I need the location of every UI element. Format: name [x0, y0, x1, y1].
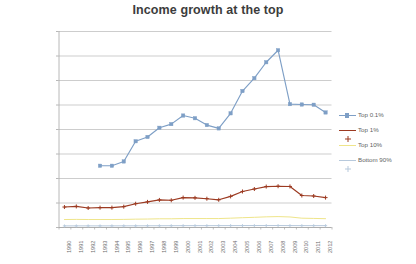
- x-axis-tick-label: 2007: [269, 240, 275, 252]
- legend-swatch-icon: [339, 126, 356, 135]
- legend-label: Bottom 90%: [358, 157, 392, 163]
- x-axis-tick-label: 1995: [126, 240, 132, 252]
- chart-legend: Top 0.1%Top 1%Top 10%Bottom 90%: [339, 108, 416, 168]
- x-axis-tick-label: 2004: [233, 240, 239, 252]
- x-axis-tick-label: 2003: [221, 240, 227, 252]
- x-axis-tick-label: 2005: [245, 240, 251, 252]
- legend-marker-square-icon: [345, 113, 349, 117]
- x-axis-tick-label: 2009: [293, 240, 299, 252]
- x-axis-tick-label: 1991: [79, 240, 85, 252]
- x-axis-tick-label: 1999: [174, 240, 180, 252]
- x-axis-tick-label: 1994: [115, 240, 121, 252]
- legend-label: Top 1%: [358, 127, 379, 133]
- legend-item-top-10[interactable]: Top 10%: [339, 138, 416, 153]
- x-axis-tick-label: 2010: [304, 240, 310, 252]
- legend-label: Top 0.1%: [358, 112, 384, 118]
- legend-marker-plus-icon: [345, 128, 351, 134]
- x-axis-tick-label: 2001: [198, 240, 204, 252]
- x-axis-tick-label: 1993: [103, 240, 109, 252]
- x-axis-tick-label: 2012: [328, 240, 334, 252]
- legend-swatch-icon: [339, 111, 356, 120]
- legend-marker-plus-icon: [345, 158, 351, 164]
- x-axis-tick-label: 2000: [186, 240, 192, 252]
- legend-line: [339, 145, 356, 146]
- x-axis-tick-label: 1996: [138, 240, 144, 252]
- x-axis-tick-label: 2011: [316, 240, 322, 252]
- chart-container: Income growth at the top £0£200,000£400,…: [0, 0, 416, 264]
- x-axis-tick-label: 1997: [150, 240, 156, 252]
- legend-swatch-icon: [339, 156, 356, 165]
- legend-label: Top 10%: [358, 142, 382, 148]
- x-axis-tick-label: 2006: [257, 240, 263, 252]
- legend-item-top-0-1[interactable]: Top 0.1%: [339, 108, 416, 123]
- x-axis-tick-label: 2002: [209, 240, 215, 252]
- legend-item-top-1[interactable]: Top 1%: [339, 123, 416, 138]
- x-axis-tick-label: 1992: [91, 240, 97, 252]
- legend-swatch-icon: [339, 141, 356, 150]
- x-axis-tick-label: 1998: [162, 240, 168, 252]
- x-axis-tick-label: 1990: [67, 240, 73, 252]
- x-axis-tick-label: 2008: [281, 240, 287, 252]
- legend-item-bottom-90[interactable]: Bottom 90%: [339, 153, 416, 168]
